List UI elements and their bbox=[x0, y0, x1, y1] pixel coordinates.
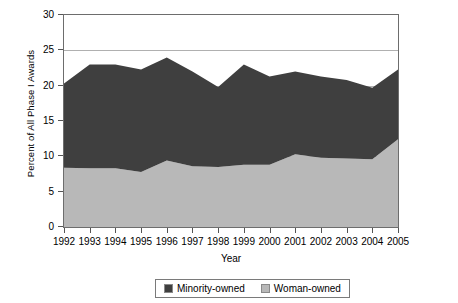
x-tick-mark bbox=[90, 228, 91, 233]
x-axis-title: Year bbox=[63, 253, 399, 264]
x-tick-mark bbox=[167, 228, 168, 233]
y-tick-label: 10 bbox=[43, 150, 54, 162]
x-tick-label: 2005 bbox=[378, 236, 418, 247]
y-tick-10: 10 bbox=[0, 150, 63, 162]
x-tick-mark bbox=[115, 228, 116, 233]
y-tick-20: 20 bbox=[0, 80, 63, 92]
x-tick-mark bbox=[244, 228, 245, 233]
stacked-area-series bbox=[64, 15, 398, 227]
legend-swatch-dark bbox=[164, 284, 173, 293]
legend-label: Woman-owned bbox=[274, 283, 341, 294]
y-tick-30: 30 bbox=[0, 9, 63, 21]
y-tick-label: 25 bbox=[43, 44, 54, 56]
plot-inner bbox=[64, 15, 398, 227]
x-tick-mark bbox=[321, 228, 322, 233]
y-tick-label: 30 bbox=[43, 9, 54, 21]
y-tick-5: 5 bbox=[0, 186, 63, 198]
area-chart: Percent of All Phase I Awards 0510152025… bbox=[0, 0, 458, 303]
y-tick-15: 15 bbox=[0, 115, 63, 127]
y-axis-ticks: 051015202530 bbox=[0, 0, 63, 242]
y-tick-label: 15 bbox=[43, 115, 54, 127]
legend-swatch-light bbox=[261, 284, 270, 293]
x-tick-mark bbox=[192, 228, 193, 233]
x-tick-mark bbox=[295, 228, 296, 233]
x-tick-mark bbox=[64, 228, 65, 233]
x-tick-mark bbox=[218, 228, 219, 233]
y-tick-label: 20 bbox=[43, 80, 54, 92]
area-series-minority-owned bbox=[64, 57, 398, 171]
y-tick-label: 5 bbox=[48, 186, 54, 198]
y-tick-25: 25 bbox=[0, 44, 63, 56]
legend-item-minority-owned[interactable]: Minority-owned bbox=[164, 283, 245, 294]
legend-item-woman-owned[interactable]: Woman-owned bbox=[261, 283, 341, 294]
chart-legend: Minority-ownedWoman-owned bbox=[155, 279, 350, 298]
legend-label: Minority-owned bbox=[177, 283, 245, 294]
x-tick-mark bbox=[141, 228, 142, 233]
plot-area bbox=[63, 14, 399, 228]
x-tick-mark bbox=[372, 228, 373, 233]
x-tick-mark bbox=[270, 228, 271, 233]
x-tick-mark bbox=[347, 228, 348, 233]
x-tick-mark bbox=[398, 228, 399, 233]
x-axis-ticks: 1992199319941995199619971998199920002001… bbox=[0, 228, 458, 254]
